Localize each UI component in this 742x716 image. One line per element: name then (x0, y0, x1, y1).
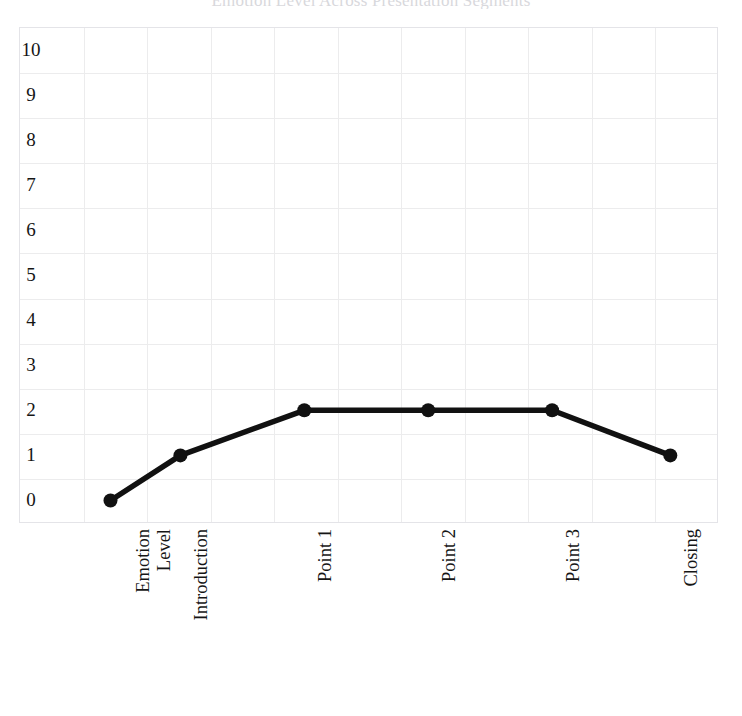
gridline-horizontal (20, 344, 717, 345)
gridline-vertical (592, 28, 593, 522)
gridline-horizontal (20, 253, 717, 254)
gridline-vertical (401, 28, 402, 522)
gridline-horizontal (20, 208, 717, 209)
gridline-horizontal (20, 389, 717, 390)
line-chart: Emotion Level Across Presentation Segmen… (0, 0, 742, 716)
y-axis-tick-7: 7 (0, 175, 62, 194)
y-axis-tick-4: 4 (0, 310, 62, 329)
gridline-horizontal (20, 73, 717, 74)
chart-title: Emotion Level Across Presentation Segmen… (0, 0, 742, 9)
y-axis-tick-5: 5 (0, 265, 62, 284)
gridline-horizontal (20, 299, 717, 300)
gridline-horizontal (20, 163, 717, 164)
gridline-horizontal (20, 434, 717, 435)
gridline-vertical (274, 28, 275, 522)
gridline-vertical (338, 28, 339, 522)
y-axis-tick-9: 9 (0, 85, 62, 104)
gridline-vertical (528, 28, 529, 522)
x-axis-tick-point-1: Point 1 (315, 529, 336, 699)
gridline-horizontal (20, 118, 717, 119)
gridline-vertical (147, 28, 148, 522)
plot-area (19, 27, 718, 523)
x-axis-tick-emotion-level: Emotion Level (133, 529, 175, 699)
y-axis-tick-1: 1 (0, 445, 62, 464)
gridline-vertical (655, 28, 656, 522)
x-axis-tick-introduction: Introduction (191, 529, 212, 699)
y-axis-tick-10: 10 (0, 40, 62, 59)
gridline-horizontal (20, 479, 717, 480)
gridline-vertical (211, 28, 212, 522)
gridline-vertical (465, 28, 466, 522)
gridline-vertical (84, 28, 85, 522)
x-axis-tick-point-3: Point 3 (563, 529, 584, 699)
x-axis-tick-point-2: Point 2 (439, 529, 460, 699)
y-axis-tick-6: 6 (0, 220, 62, 239)
y-axis-tick-0: 0 (0, 490, 62, 509)
x-axis-tick-closing: Closing (681, 529, 702, 699)
y-axis-tick-2: 2 (0, 400, 62, 419)
y-axis-tick-3: 3 (0, 355, 62, 374)
y-axis-tick-8: 8 (0, 130, 62, 149)
